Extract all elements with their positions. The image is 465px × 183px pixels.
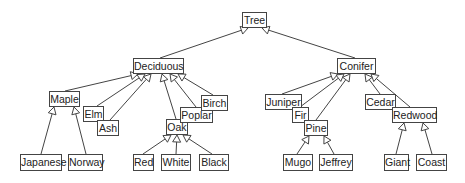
node-label: Coast <box>418 156 445 168</box>
inheritance-arrow-icon <box>302 136 309 144</box>
edge-giant-to-redwood <box>396 130 402 154</box>
node-coast: Coast <box>416 154 447 171</box>
node-label: Norway <box>69 156 105 168</box>
edge-poplar-to-deciduous <box>174 79 196 107</box>
inheritance-arrow-icon <box>398 123 406 131</box>
node-label: Jeffrey <box>320 156 351 168</box>
inheritance-arrow-icon <box>72 107 80 115</box>
edge-maple-to-deciduous <box>65 76 131 91</box>
node-label: Tree <box>244 14 265 26</box>
node-maple: Maple <box>49 91 80 107</box>
node-japanese: Japanese <box>20 154 62 171</box>
inheritance-arrow-icon <box>173 135 181 142</box>
edge-japanese-to-maple <box>41 114 52 154</box>
node-label: Pine <box>305 122 326 134</box>
edge-deciduous-to-tree <box>160 30 241 58</box>
node-label: Red <box>134 156 153 168</box>
node-redwood: Redwood <box>392 107 437 123</box>
edge-juniper-to-conifer <box>282 76 331 94</box>
inheritance-arrow-icon <box>163 135 171 142</box>
node-ash: Ash <box>97 120 119 136</box>
node-norway: Norway <box>68 154 103 171</box>
inheritance-arrow-icon <box>183 135 191 142</box>
inheritance-arrow-icon <box>178 74 186 81</box>
node-label: Ash <box>99 122 117 134</box>
edge-pine-to-conifer <box>316 80 346 120</box>
node-giant: Giant <box>384 154 409 171</box>
node-deciduous: Deciduous <box>133 58 184 74</box>
node-mugo: Mugo <box>283 154 313 171</box>
node-pine: Pine <box>304 120 328 136</box>
node-label: White <box>163 156 190 168</box>
inheritance-arrow-icon <box>371 74 379 82</box>
inheritance-arrow-icon <box>421 123 429 131</box>
node-label: Conifer <box>340 60 374 72</box>
inheritance-arrow-icon <box>170 74 177 82</box>
node-birch: Birch <box>201 95 228 111</box>
node-tree: Tree <box>242 12 267 28</box>
node-label: Redwood <box>393 109 437 121</box>
node-label: Japanese <box>21 156 67 168</box>
node-black: Black <box>199 154 229 171</box>
node-label: Deciduous <box>134 60 184 72</box>
node-jeffrey: Jeffrey <box>319 154 353 171</box>
edge-mugo-to-pine <box>297 142 305 154</box>
edge-cedar-to-conifer <box>369 80 380 94</box>
edge-birch-to-deciduous <box>184 78 213 95</box>
node-white: White <box>161 154 191 171</box>
node-label: Mugo <box>285 156 311 168</box>
node-red: Red <box>133 154 154 171</box>
edge-jeffrey-to-pine <box>327 142 334 154</box>
edge-oak-to-deciduous <box>164 81 176 119</box>
edge-red-to-oak <box>143 139 165 154</box>
node-label: Maple <box>50 93 79 105</box>
node-label: Birch <box>203 97 227 109</box>
node-label: Elm <box>84 108 102 120</box>
inheritance-arrow-icon <box>48 107 56 115</box>
edge-fir-to-conifer <box>300 78 338 107</box>
node-label: Giant <box>385 156 410 168</box>
edge-black-to-oak <box>189 139 212 154</box>
edge-coast-to-redwood <box>425 130 432 154</box>
node-conifer: Conifer <box>337 58 376 74</box>
node-label: Black <box>201 156 227 168</box>
edge-white-to-oak <box>176 142 177 154</box>
node-label: Cedar <box>366 96 395 108</box>
inheritance-arrow-icon <box>160 74 168 82</box>
edge-conifer-to-tree <box>269 30 355 58</box>
